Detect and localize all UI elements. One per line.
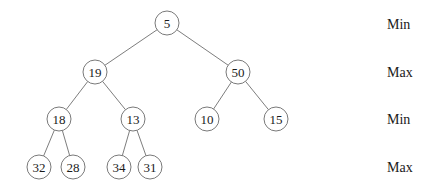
edge-5-50: [177, 30, 228, 65]
level-label-2-min: Min: [387, 112, 410, 127]
edge-50-10: [214, 82, 232, 109]
level-labels-group: MinMaxMinMax: [387, 17, 413, 175]
node-value: 19: [89, 65, 102, 80]
edge-13-34: [122, 131, 129, 156]
tree-node-31: 31: [138, 155, 162, 179]
edge-19-18: [66, 82, 87, 110]
level-label-0-min: Min: [387, 17, 410, 32]
edge-18-32: [44, 130, 55, 156]
node-value: 5: [164, 16, 171, 31]
tree-node-10: 10: [195, 107, 219, 131]
node-value: 50: [232, 65, 245, 80]
node-value: 18: [53, 112, 66, 127]
tree-node-32: 32: [27, 155, 51, 179]
edge-13-31: [137, 130, 146, 155]
tree-node-18: 18: [47, 107, 71, 131]
node-value: 34: [113, 160, 127, 175]
node-value: 15: [270, 112, 283, 127]
edge-50-15: [246, 81, 269, 109]
level-label-1-max: Max: [387, 65, 413, 80]
edge-5-19: [105, 30, 157, 65]
node-value: 32: [33, 160, 46, 175]
edge-19-13: [103, 81, 126, 109]
tree-node-19: 19: [83, 60, 107, 84]
level-label-3-max: Max: [387, 160, 413, 175]
tree-node-15: 15: [264, 107, 288, 131]
edges-group: [44, 30, 269, 156]
node-value: 31: [144, 160, 157, 175]
tree-node-34: 34: [107, 155, 131, 179]
nodes-group: 519501813101532283431: [27, 11, 288, 179]
tree-node-5: 5: [155, 11, 179, 35]
edge-18-28: [62, 131, 69, 156]
node-value: 13: [127, 112, 140, 127]
node-value: 10: [201, 112, 214, 127]
heap-diagram: 519501813101532283431 MinMaxMinMax: [0, 0, 434, 192]
tree-node-13: 13: [121, 107, 145, 131]
tree-node-28: 28: [61, 155, 85, 179]
tree-node-50: 50: [226, 60, 250, 84]
node-value: 28: [67, 160, 80, 175]
